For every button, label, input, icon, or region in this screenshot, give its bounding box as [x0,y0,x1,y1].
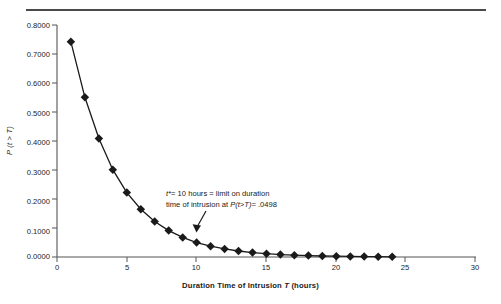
data-markers [67,38,397,261]
x-axis-label-pre: Duration Time of Intrusion [182,281,284,290]
annotation-line-2-pre: time of intrusion at [166,200,230,209]
annotation-arrow [193,211,206,233]
data-line [71,42,392,257]
x-axis-label: Duration Time of Intrusion T (hours) [0,281,501,290]
x-axis-label-post: (hours) [289,281,319,290]
annotation-line-1: t*= 10 hours = limit on duration [166,188,277,199]
x-tick-marks [57,257,475,262]
plot-canvas [0,0,501,304]
annotation-text: t*= 10 hours = limit on duration time of… [166,188,277,210]
survival-function-chart: P (t > T) 0.8000 0.7000 0.6000 0.5000 0.… [0,0,501,304]
annotation-line-2-post: = .0498 [251,200,277,209]
annotation-probability-symbol: P(t>T) [230,200,251,209]
annotation-line-2: time of intrusion at P(t>T)= .0498 [166,199,277,210]
y-tick-marks [52,25,57,257]
annotation-line-1-rest: = 10 hours = limit on duration [171,189,269,198]
